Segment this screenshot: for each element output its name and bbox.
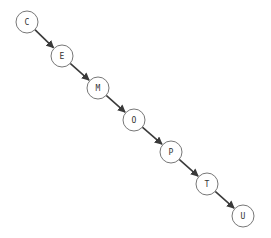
node-u: U — [232, 205, 254, 227]
node-m: M — [87, 77, 109, 99]
node-label: C — [25, 18, 30, 27]
edge-m-o — [106, 95, 125, 112]
node-e: E — [51, 45, 73, 67]
node-label: U — [241, 212, 246, 221]
node-t: T — [196, 173, 218, 195]
edge-e-m — [70, 63, 89, 80]
tree-diagram: CEMOPTU — [0, 0, 271, 238]
node-p: P — [160, 141, 182, 163]
node-o: O — [123, 109, 145, 131]
node-label: M — [96, 84, 101, 93]
node-label: O — [132, 116, 137, 125]
edge-o-p — [142, 127, 162, 144]
edge-t-u — [215, 191, 234, 208]
node-label: T — [205, 180, 210, 189]
node-label: E — [60, 52, 65, 61]
node-label: P — [169, 148, 174, 157]
node-c: C — [16, 11, 38, 33]
edge-c-e — [35, 30, 54, 48]
edge-p-t — [179, 159, 198, 176]
